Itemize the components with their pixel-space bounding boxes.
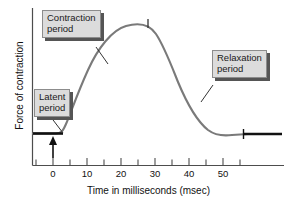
x-tick-label-20: 20 — [111, 168, 131, 179]
callout-latent-line1: Latent — [39, 92, 65, 103]
muscle-twitch-chart: 0 10 20 30 40 50 Time in milliseconds (m… — [0, 0, 297, 204]
twitch-curve — [33, 24, 248, 135]
callout-relaxation-period: Relaxation period — [212, 50, 267, 78]
x-axis-ticks — [36, 158, 240, 166]
x-tick-label-30: 30 — [145, 168, 165, 179]
callout-relaxation-line2: period — [217, 64, 262, 75]
stimulus-arrow-icon — [49, 136, 57, 158]
x-tick-label-10: 10 — [77, 168, 97, 179]
x-tick-label-50: 50 — [213, 168, 233, 179]
x-axis-title: Time in milliseconds (msec) — [0, 185, 297, 196]
callout-relaxation-line1: Relaxation — [217, 53, 262, 64]
contraction-leader-line — [96, 47, 108, 64]
relaxation-leader-line — [201, 85, 213, 102]
callout-contraction-line1: Contraction — [47, 13, 96, 24]
callout-latent-period: Latent period — [34, 89, 70, 117]
callout-latent-line2: period — [39, 103, 65, 114]
x-tick-label-0: 0 — [43, 168, 63, 179]
x-tick-label-40: 40 — [179, 168, 199, 179]
callout-contraction-line2: period — [47, 24, 96, 35]
latent-leader-line — [50, 116, 63, 133]
y-axis-title: Force of contraction — [14, 21, 25, 151]
callout-contraction-period: Contraction period — [42, 10, 101, 38]
